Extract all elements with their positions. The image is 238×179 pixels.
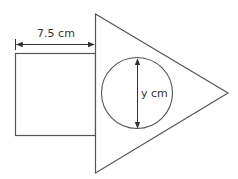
square-width-label: 7.5 cm (37, 27, 75, 40)
circle-diameter-label: y cm (141, 87, 168, 100)
square-shape (16, 54, 96, 136)
diagram-canvas: 7.5 cm y cm (0, 0, 238, 179)
